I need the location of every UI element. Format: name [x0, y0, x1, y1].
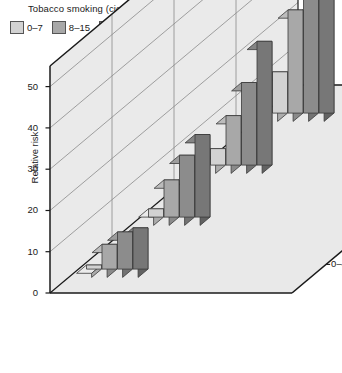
chart-figure: Tobacco smoking (cigarettes/day) 0–7 8–1… [0, 0, 342, 373]
depth-tick-label-0: 0–40 [331, 258, 342, 269]
plot-area [0, 0, 342, 373]
